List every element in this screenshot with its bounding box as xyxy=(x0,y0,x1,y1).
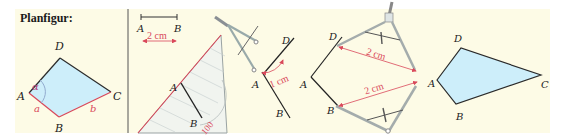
compass-screw xyxy=(381,32,382,44)
label-d: D xyxy=(54,40,64,53)
compass-joint xyxy=(386,129,390,133)
square-label-b: B xyxy=(189,118,197,129)
result-label-d: D xyxy=(453,33,462,44)
result-label-c: C xyxy=(541,79,549,90)
step2-label-d: D xyxy=(281,35,290,46)
measure-2cm: 2 cm xyxy=(147,30,167,41)
label-alpha: α xyxy=(32,81,39,92)
label-side-a: a xyxy=(34,103,40,114)
compass-joint xyxy=(254,40,258,44)
label-side-b: b xyxy=(90,103,96,114)
step3-label-a: A xyxy=(299,79,307,90)
step3-label-b: B xyxy=(326,105,334,116)
step3-label-d: D xyxy=(328,31,337,42)
compass-head xyxy=(385,13,393,22)
square-label-a: A xyxy=(169,82,177,93)
step2-label-a: A xyxy=(251,79,259,90)
label-b: B xyxy=(54,122,63,135)
construction-diagram: Planfigur: D A C B a b α A B 2 cm xyxy=(0,0,565,140)
label-c: C xyxy=(113,90,122,103)
panel-title: Planfigur: xyxy=(20,11,73,25)
result-label-b: B xyxy=(455,111,463,122)
label-a: A xyxy=(16,90,25,103)
step1-label-b: B xyxy=(173,23,181,34)
compass-joint xyxy=(252,68,256,72)
step2-label-b: B xyxy=(275,108,283,119)
step1-label-a: A xyxy=(136,23,144,34)
result-label-a: A xyxy=(427,78,435,89)
